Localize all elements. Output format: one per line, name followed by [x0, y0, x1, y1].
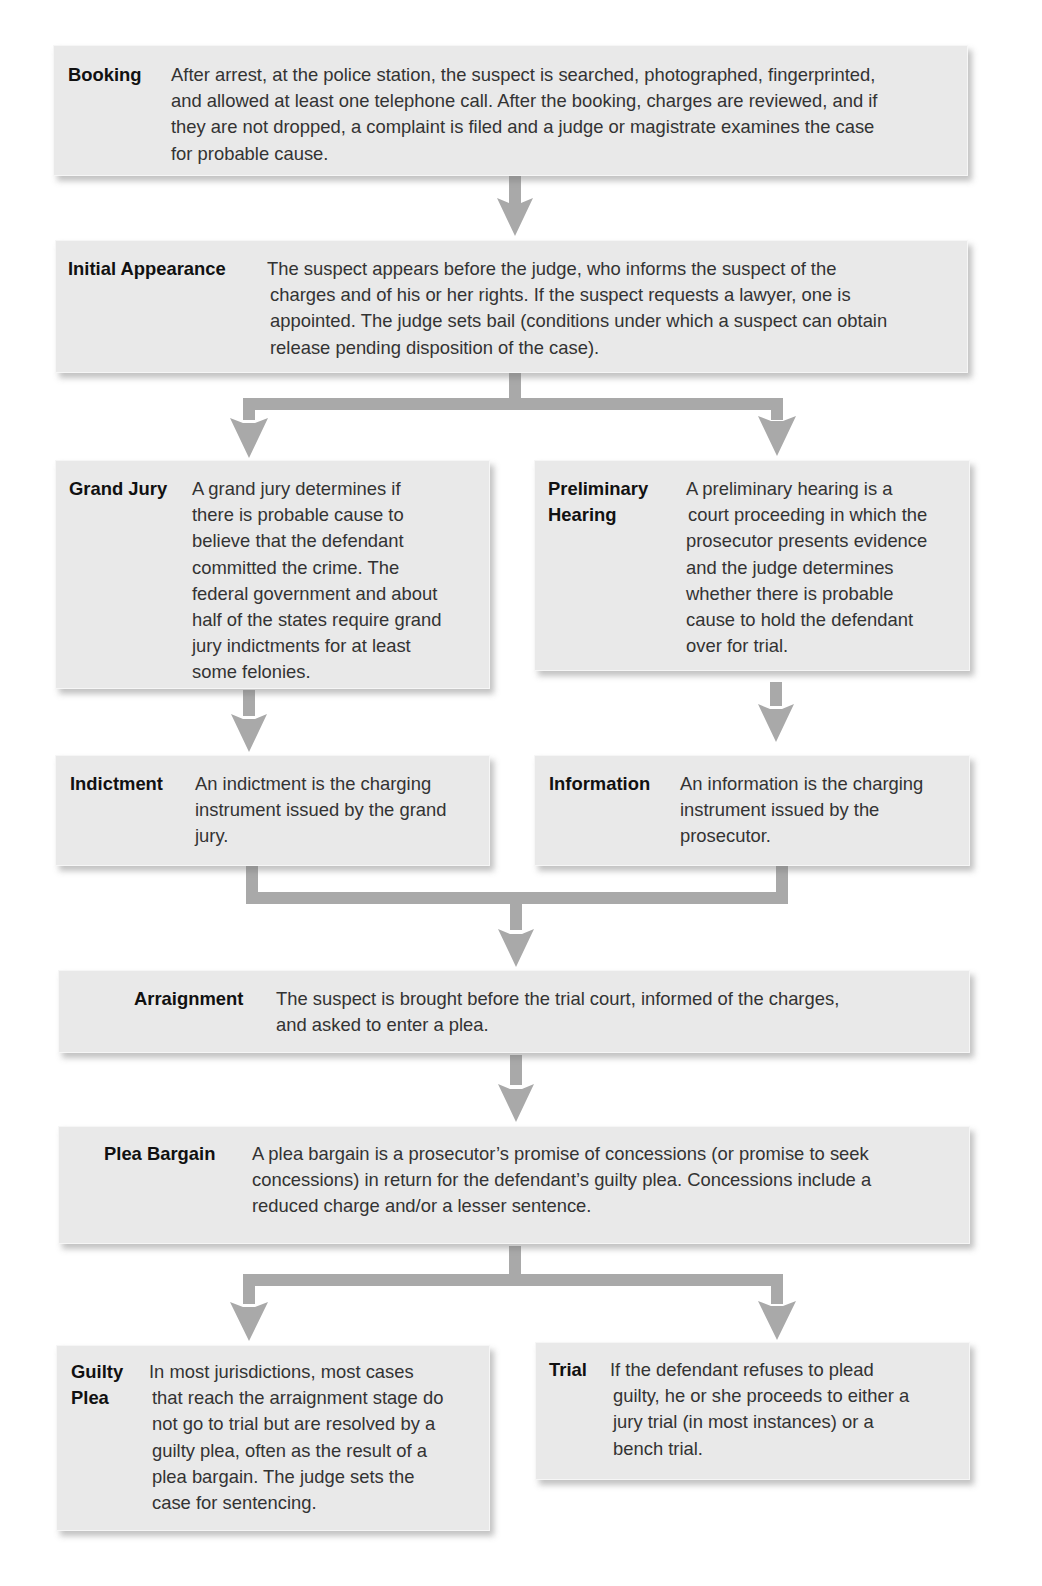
- arrow-arraignment-to-plea-bargain: [498, 1055, 534, 1122]
- step-description: A preliminary hearing is a court proceed…: [686, 476, 927, 659]
- step-information: Information An information is the chargi…: [534, 755, 970, 866]
- step-plea-bargain: Plea Bargain A plea bargain is a prosecu…: [58, 1126, 970, 1244]
- step-description: An information is the charging instrumen…: [680, 771, 923, 850]
- step-term: Information: [549, 771, 650, 797]
- step-term: Initial Appearance: [68, 256, 226, 282]
- step-preliminary-hearing: Preliminary Hearing A preliminary hearin…: [534, 460, 970, 671]
- step-description: An indictment is the charging instrument…: [195, 771, 446, 850]
- arrow-preliminary-hearing-to-information: [758, 682, 794, 742]
- connector-plea-bargain-split: [230, 1246, 796, 1341]
- step-description: A plea bargain is a prosecutor’s promise…: [252, 1141, 871, 1220]
- step-term: Guilty Plea: [71, 1359, 123, 1411]
- step-description: The suspect appears before the judge, wh…: [267, 256, 887, 361]
- step-term: Grand Jury: [69, 476, 167, 502]
- step-description: The suspect is brought before the trial …: [276, 986, 839, 1038]
- step-trial: Trial If the defendant refuses to plead …: [535, 1342, 970, 1480]
- step-term: Plea Bargain: [104, 1141, 215, 1167]
- step-term: Booking: [68, 62, 142, 88]
- step-term: Trial: [549, 1357, 587, 1383]
- step-grand-jury: Grand Jury A grand jury determines if th…: [55, 460, 490, 689]
- step-term: Preliminary Hearing: [548, 476, 648, 528]
- step-description: After arrest, at the police station, the…: [171, 62, 877, 167]
- step-term: Indictment: [70, 771, 163, 797]
- step-description: If the defendant refuses to plead guilty…: [610, 1357, 909, 1462]
- arrow-booking-to-initial-appearance: [497, 176, 533, 236]
- connector-initial-appearance-split: [230, 373, 796, 458]
- step-term: Arraignment: [134, 986, 243, 1012]
- step-initial-appearance: Initial Appearance The suspect appears b…: [55, 240, 968, 373]
- step-indictment: Indictment An indictment is the charging…: [55, 755, 490, 866]
- arrow-grand-jury-to-indictment: [231, 690, 267, 752]
- step-guilty-plea: Guilty Plea In most jurisdictions, most …: [56, 1345, 490, 1531]
- step-description: In most jurisdictions, most cases that r…: [149, 1359, 443, 1516]
- connector-merge-to-arraignment: [246, 866, 788, 967]
- step-description: A grand jury determines if there is prob…: [192, 476, 441, 686]
- step-arraignment: Arraignment The suspect is brought befor…: [58, 970, 970, 1053]
- step-booking: Booking After arrest, at the police stat…: [53, 45, 968, 176]
